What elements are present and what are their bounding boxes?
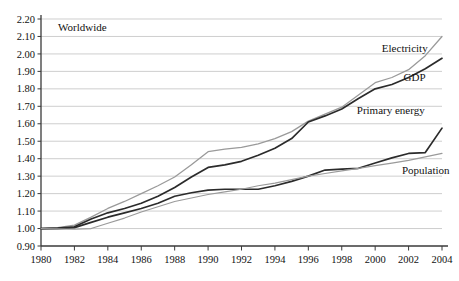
y-tick-label: 1.20 [17, 188, 35, 199]
x-tick-label: 1994 [264, 254, 286, 265]
y-tick-label: 1.40 [17, 153, 35, 164]
x-tick-label: 1992 [231, 254, 252, 265]
y-tick-label: 1.80 [17, 83, 35, 94]
x-tick-label: 2000 [365, 254, 386, 265]
x-axis [41, 246, 448, 251]
y-tick-label: 1.70 [17, 101, 35, 112]
data-series-group [41, 36, 442, 229]
x-tick-label: 1982 [64, 254, 85, 265]
corner-label-worldwide: Worldwide [58, 21, 107, 33]
x-tick-label: 1990 [198, 254, 219, 265]
x-tick-label: 2004 [432, 254, 454, 265]
x-tick-label: 1980 [31, 254, 52, 265]
y-tick-label: 1.60 [17, 118, 35, 129]
series-label-population: Population [402, 164, 450, 176]
series-line-gdp [41, 58, 442, 228]
y-tick-label: 1.50 [17, 136, 35, 147]
y-tick-label: 2.20 [17, 14, 35, 25]
x-tick-label: 1996 [298, 254, 319, 265]
y-tick-label: 2.00 [17, 49, 35, 60]
y-axis [38, 15, 42, 246]
y-tick-label: 1.00 [17, 223, 35, 234]
series-line-electricity [41, 36, 442, 228]
y-tick-label: 1.30 [17, 171, 35, 182]
series-line-primary-energy [41, 128, 442, 228]
x-tick-label: 1986 [131, 254, 152, 265]
x-tick-label: 1988 [164, 254, 185, 265]
x-tick-label: 1998 [331, 254, 352, 265]
y-tick-label: 1.90 [17, 66, 35, 77]
series-label-gdp: GDP [404, 71, 426, 83]
series-label-electricity: Electricity [382, 42, 428, 54]
y-tick-labels: 0.901.001.101.201.301.401.501.601.701.80… [17, 14, 35, 252]
x-tick-label: 2002 [398, 254, 419, 265]
chart-container: 0.901.001.101.201.301.401.501.601.701.80… [0, 0, 459, 281]
series-label-primary-energy: Primary energy [357, 104, 425, 116]
x-tick-label: 1984 [97, 254, 119, 265]
line-chart: 0.901.001.101.201.301.401.501.601.701.80… [0, 0, 459, 281]
y-tick-label: 0.90 [17, 241, 35, 252]
series-line-population [41, 153, 442, 229]
y-tick-label: 1.10 [17, 206, 35, 217]
x-tick-labels: 1980198219841986198819901992199419961998… [31, 254, 454, 265]
y-tick-label: 2.10 [17, 31, 35, 42]
